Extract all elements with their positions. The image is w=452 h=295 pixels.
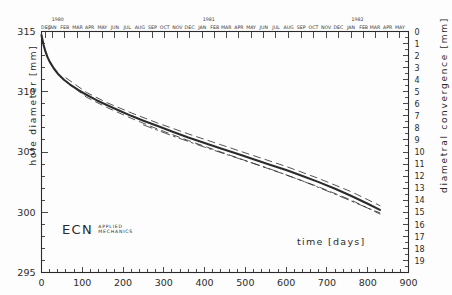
year-label: 1980 [52, 17, 64, 22]
x-axis-title: time [days] [297, 236, 366, 247]
y-tick-label-right: 6 [415, 100, 420, 109]
y-tick-label-right: 2 [415, 52, 420, 61]
ecn-logo-wordmark: ECN [62, 222, 93, 237]
year-label: 1982 [352, 17, 364, 22]
data-series-line [42, 35, 380, 210]
month-label: MAY [246, 25, 256, 30]
y-tick-label-right: 4 [415, 76, 420, 85]
data-series-line [66, 78, 380, 206]
y-tick-label-right: 14 [415, 196, 425, 205]
month-label: MAY [395, 25, 405, 30]
month-label: SEP [297, 25, 306, 30]
month-label: NOV [321, 25, 332, 30]
month-label: MAR [72, 25, 83, 30]
x-tick-label: 800 [359, 277, 377, 288]
y-axis-left-title: hole diameter [mm] [28, 25, 38, 185]
y-tick-label-right: 5 [415, 88, 420, 97]
ecn-logo-line2: MECHANICS [98, 229, 133, 234]
month-label: MAR [221, 25, 232, 30]
x-tick-label: 100 [73, 277, 91, 288]
month-label: JUL [271, 25, 280, 30]
x-tick-label: 0 [38, 277, 44, 288]
month-label: APR [234, 25, 244, 30]
month-label: OCT [309, 25, 319, 30]
y-tick-label-right: 16 [415, 221, 425, 230]
month-label: APR [383, 25, 393, 30]
y-tick-label-right: 0 [415, 28, 420, 37]
y-tick-label-right: 15 [415, 208, 425, 217]
y-tick-label-left: 300 [17, 207, 35, 218]
x-tick-label: 400 [196, 277, 214, 288]
ecn-logo: ECN APPLIED MECHANICS [62, 222, 133, 237]
year-label: 1981 [203, 17, 215, 22]
month-label: OCT [160, 25, 170, 30]
y-tick-label-right: 12 [415, 172, 425, 181]
month-label: JUL [122, 25, 131, 30]
month-label: JUN [110, 25, 120, 30]
month-label: NOV [172, 25, 183, 30]
y-tick-label-left: 295 [17, 267, 35, 278]
y-tick-label-right: 9 [415, 136, 420, 145]
y-tick-label-right: 10 [415, 148, 425, 157]
y-tick-label-right: 13 [415, 184, 425, 193]
month-label: FEB [210, 25, 219, 30]
y-tick-label-right: 3 [415, 64, 420, 73]
y-tick-label-right: 8 [415, 124, 420, 133]
chart-svg: 0100200300400500600700800900DECJANFEBMAR… [0, 0, 452, 295]
month-label: SEP [148, 25, 157, 30]
x-tick-label: 300 [155, 277, 173, 288]
y-tick-label-right: 11 [415, 160, 425, 169]
y-tick-label-right: 7 [415, 112, 420, 121]
x-tick-label: 500 [236, 277, 254, 288]
figure-canvas: 0100200300400500600700800900DECJANFEBMAR… [0, 0, 452, 295]
month-label: MAR [370, 25, 381, 30]
data-series-line [66, 82, 380, 215]
month-label: FEB [359, 25, 368, 30]
month-label: JAN [346, 25, 356, 30]
month-label: AUG [135, 25, 146, 30]
x-tick-label: 200 [114, 277, 132, 288]
month-label: MAY [97, 25, 107, 30]
month-label: JUN [259, 25, 269, 30]
month-label: FEB [60, 25, 69, 30]
y-tick-label-right: 1 [415, 40, 420, 49]
month-label: JAN [48, 25, 58, 30]
x-tick-label: 600 [277, 277, 295, 288]
data-series-line [143, 125, 380, 213]
y-tick-label-right: 17 [415, 233, 425, 242]
month-label: DEC [185, 25, 196, 30]
y-tick-label-right: 18 [415, 245, 425, 254]
month-label: JAN [197, 25, 207, 30]
month-label: APR [85, 25, 95, 30]
month-label: DEC [333, 25, 344, 30]
month-label: AUG [283, 25, 294, 30]
y-tick-label-right: 19 [415, 257, 425, 266]
y-axis-right-title: diametral convergence [mm] [439, 5, 449, 205]
x-tick-label: 900 [399, 277, 417, 288]
x-tick-label: 700 [318, 277, 336, 288]
